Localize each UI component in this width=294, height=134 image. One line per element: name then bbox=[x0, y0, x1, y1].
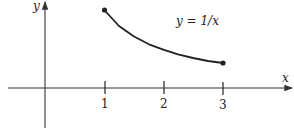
function-annotation: y = 1/x bbox=[175, 14, 219, 28]
x-axis-label: x bbox=[282, 71, 289, 85]
end-point bbox=[220, 60, 225, 65]
y-axis-label: y bbox=[32, 0, 40, 13]
x-tick-label-3: 3 bbox=[219, 98, 227, 112]
x-tick-label-2: 2 bbox=[160, 97, 168, 111]
x-tick-label-1: 1 bbox=[101, 97, 109, 111]
chart-canvas: 1 2 3 x y y = 1/x bbox=[0, 0, 294, 134]
start-point bbox=[102, 7, 107, 12]
